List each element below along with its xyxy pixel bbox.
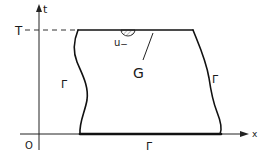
t-axis (36, 4, 42, 150)
half-ball-icon (121, 30, 135, 36)
region-label: G (133, 65, 144, 81)
region-leader-line (143, 33, 153, 60)
top-time-label: T (14, 24, 23, 38)
domain-diagram: t x O T u− G Γ Γ Γ (0, 0, 269, 168)
bottom-boundary-label: Γ (146, 140, 153, 153)
t-axis-label: t (43, 3, 48, 16)
half-ball-label: u− (114, 37, 128, 49)
left-boundary-label: Γ (61, 78, 68, 91)
t-axis-arrow-icon (36, 4, 42, 12)
right-boundary-label: Γ (212, 73, 219, 86)
x-axis-arrow-icon (240, 131, 249, 137)
x-axis-label: x (252, 129, 258, 139)
domain-boundary (74, 30, 221, 134)
left-boundary-curve (74, 30, 87, 134)
origin-label: O (25, 140, 33, 151)
